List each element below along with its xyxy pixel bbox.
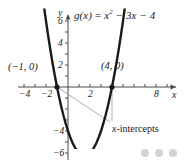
y-tick-label-4: 4 [58, 39, 63, 49]
y-tick-label-2: 2 [58, 61, 63, 71]
pager-dot-1[interactable] [141, 149, 149, 157]
leader-lines [57, 87, 112, 122]
x-tick-label-2: 2 [88, 90, 93, 100]
equation-arg: (x) [80, 9, 93, 21]
equation-term2: − 3x − 4 [113, 9, 156, 21]
y-tick-label--4: −4 [53, 127, 64, 137]
point-label-right: (4, 0) [101, 61, 124, 72]
function-equation-label: g(x) = x2 − 3x − 4 [74, 9, 155, 21]
x-tick-label--2: −2 [41, 90, 52, 100]
x-tick-label--4: −4 [19, 90, 30, 100]
x-intercepts-annotation: x-intercepts [112, 124, 159, 134]
pager-dot-3[interactable] [169, 149, 177, 157]
graph-figure: g(x) = x2 − 3x − 4 x y (−1, 0) (4, 0) x-… [0, 0, 184, 166]
x-intercept-marker-left [54, 84, 59, 89]
x-axis-label: x [172, 90, 176, 100]
point-label-left: (−1, 0) [8, 62, 38, 73]
equation-eq: = [92, 9, 104, 21]
x-tick-label-8: 8 [154, 90, 159, 100]
x-intercepts-text: -intercepts [116, 123, 158, 134]
y-tick-label--6: −6 [53, 149, 64, 159]
pager-dot-2[interactable] [155, 149, 163, 157]
x-intercept-marker-right [109, 84, 114, 89]
y-tick-label-6: 6 [58, 17, 63, 27]
plot-canvas [0, 0, 184, 166]
pager-dots[interactable] [141, 149, 177, 157]
